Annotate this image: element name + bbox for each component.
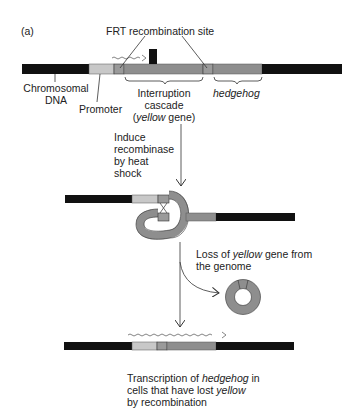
frt-site-label: FRT recombination site [106,25,214,37]
excised-yellow-ring [226,280,261,315]
hedgehog-segment [213,64,262,74]
short-transcript-wave [112,57,140,59]
recombination-diagram [0,0,359,419]
middle-loop-construct [65,191,295,239]
promoter-label: Promoter [79,103,122,115]
interruption-cascade-label: Interruption cascade (yellow gene) [124,87,204,123]
interruption-cascade-segment [124,64,203,74]
hedgehog-brace [214,77,262,84]
bottom-dna-construct [64,332,294,350]
interruption-brace [125,77,203,84]
promoter-segment [89,64,114,74]
chromosomal-dna-right [262,64,342,74]
chromosomal-dna-left [22,64,89,74]
panel-label: (a) [21,25,34,37]
frt-site-left [114,64,124,74]
step1-induce-recombinase-label: Induce recombinase by heat shock [114,131,174,179]
step2-loss-of-yellow-label: Loss of yellow gene from the genome [196,248,312,272]
terminator-block [149,49,157,64]
frt-site-right [203,64,213,74]
result-transcription-label: Transcription of hedgehog in cells that … [127,372,260,408]
long-transcript-wave [128,334,212,336]
hedgehog-label: hedgehog [213,87,260,99]
